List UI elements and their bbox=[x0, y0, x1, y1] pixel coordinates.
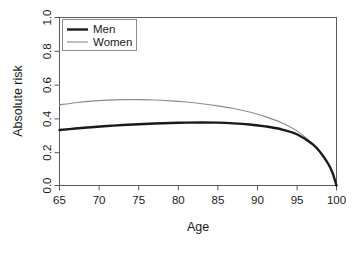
legend-label-men: Men bbox=[93, 23, 115, 35]
y-ticklabel-1: 0.2 bbox=[41, 145, 53, 161]
x-ticklabel-2: 75 bbox=[132, 194, 145, 206]
chart-figure: 1.0 0.8 0.6 0.4 0.2 0.0 65 70 75 80 85 9… bbox=[0, 0, 355, 264]
y-ticklabel-0: 0.0 bbox=[41, 178, 53, 194]
y-axis-tick-labels: 1.0 0.8 0.6 0.4 0.2 0.0 bbox=[41, 10, 53, 194]
y-ticklabel-5: 1.0 bbox=[41, 10, 53, 26]
x-ticklabel-3: 80 bbox=[172, 194, 185, 206]
series-line-women bbox=[60, 100, 337, 186]
x-ticklabel-5: 90 bbox=[251, 194, 264, 206]
x-axis-ticks bbox=[60, 186, 337, 191]
line-chart: 1.0 0.8 0.6 0.4 0.2 0.0 65 70 75 80 85 9… bbox=[0, 0, 355, 264]
y-ticklabel-2: 0.4 bbox=[41, 110, 53, 127]
y-axis-title: Absolute risk bbox=[11, 64, 25, 136]
x-ticklabel-4: 85 bbox=[212, 194, 225, 206]
series-group bbox=[60, 100, 337, 186]
x-ticklabel-6: 95 bbox=[291, 194, 304, 206]
x-ticklabel-0: 65 bbox=[53, 194, 66, 206]
y-axis-ticks bbox=[55, 18, 60, 186]
x-ticklabel-1: 70 bbox=[93, 194, 106, 206]
legend-label-women: Women bbox=[93, 36, 132, 48]
series-line-men bbox=[60, 123, 337, 186]
y-ticklabel-3: 0.6 bbox=[41, 77, 53, 93]
x-axis-tick-labels: 65 70 75 80 85 90 95 100 bbox=[53, 194, 346, 206]
x-ticklabel-7: 100 bbox=[327, 194, 346, 206]
y-ticklabel-4: 0.8 bbox=[41, 43, 53, 59]
x-axis-title: Age bbox=[187, 220, 209, 234]
chart-legend: Men Women bbox=[63, 20, 137, 51]
